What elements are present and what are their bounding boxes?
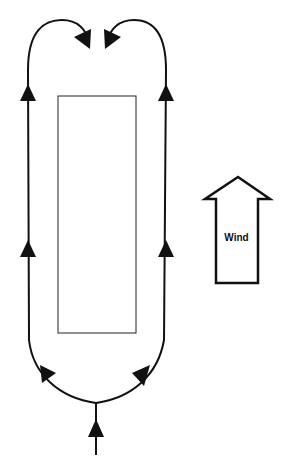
arrowhead-icon [104, 29, 121, 49]
wind-label: Wind [216, 232, 257, 243]
arrowhead-icon [158, 240, 174, 257]
arrowhead-icon [20, 240, 36, 257]
arrowhead-icon [88, 419, 104, 437]
building-rectangle [58, 96, 136, 333]
arrowhead-icon [158, 84, 174, 101]
left-flow-path [28, 20, 96, 403]
arrowhead-icon [20, 84, 36, 101]
arrowhead-icon [74, 29, 91, 49]
right-flow-path [96, 20, 166, 403]
wind-arrow-icon [205, 177, 270, 283]
